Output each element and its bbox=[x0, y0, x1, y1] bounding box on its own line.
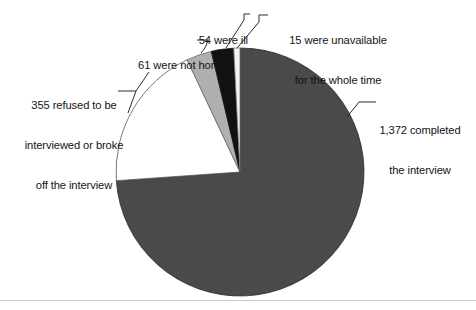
pie-label-refused-line1: 355 refused to be bbox=[8, 99, 140, 112]
pie-label-completed: 1,372 completed the interview bbox=[366, 98, 474, 204]
pie-label-unavailable: 15 were unavailable for the whole time bbox=[268, 8, 408, 114]
pie-label-completed-line2: the interview bbox=[366, 164, 474, 177]
pie-label-unavailable-line1: 15 were unavailable bbox=[268, 34, 408, 47]
pie-label-refused: 355 refused to be interviewed or broke o… bbox=[8, 73, 140, 218]
pie-label-not-home-line1: 61 were not home bbox=[84, 59, 226, 72]
pie-label-completed-line1: 1,372 completed bbox=[366, 124, 474, 137]
pie-label-unavailable-line2: for the whole time bbox=[268, 74, 408, 87]
leader-line-unavailable bbox=[259, 15, 268, 22]
pie-label-refused-line2: interviewed or broke bbox=[8, 139, 140, 152]
pie-label-refused-line3: off the interview bbox=[8, 179, 140, 192]
figure-bottom-rule bbox=[0, 300, 476, 301]
pie-chart-figure: 1,372 completed the interview 15 were un… bbox=[0, 0, 476, 310]
